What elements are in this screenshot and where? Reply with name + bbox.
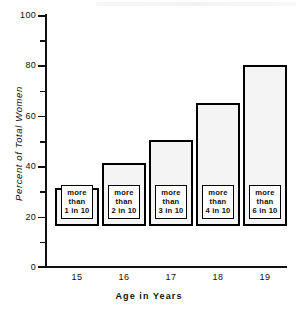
bar-annotation-19: more than 6 in 10 — [249, 185, 281, 219]
x-tick-label-17: 17 — [166, 272, 177, 282]
annotation-line-3: 6 in 10 — [252, 206, 277, 215]
bar-chart-figure: 100 80 60 40 20 0 Percent of Total Women… — [0, 0, 298, 309]
annotation-line-3: 2 in 10 — [111, 206, 136, 215]
annotation-line-1: more — [111, 188, 136, 197]
bar-age-15: more than 1 in 10 — [55, 188, 99, 226]
annotation-line-2: than — [252, 197, 277, 206]
bar-age-19: more than 6 in 10 — [243, 65, 287, 226]
x-tick-label-15: 15 — [72, 272, 83, 282]
bar-annotation-17: more than 3 in 10 — [155, 185, 187, 219]
annotation-line-2: than — [111, 197, 136, 206]
x-tick-label-16: 16 — [119, 272, 130, 282]
annotation-line-1: more — [64, 188, 89, 197]
annotation-line-1: more — [158, 188, 183, 197]
x-axis-tick-labels: 15 16 17 18 19 — [0, 272, 298, 288]
annotation-line-3: 1 in 10 — [64, 206, 89, 215]
bar-age-18: more than 4 in 10 — [196, 103, 240, 227]
annotation-line-1: more — [205, 188, 230, 197]
annotation-line-3: 3 in 10 — [158, 206, 183, 215]
annotation-line-2: than — [158, 197, 183, 206]
bar-age-16: more than 2 in 10 — [102, 163, 146, 226]
x-tick-label-19: 19 — [260, 272, 271, 282]
x-axis-title: Age in Years — [0, 291, 298, 301]
bar-annotation-16: more than 2 in 10 — [108, 185, 140, 219]
bar-series: more than 1 in 10 more than 2 in 10 more… — [0, 0, 298, 268]
bar-annotation-18: more than 4 in 10 — [202, 185, 234, 219]
bar-annotation-15: more than 1 in 10 — [61, 185, 93, 219]
x-tick-label-18: 18 — [213, 272, 224, 282]
bar-age-17: more than 3 in 10 — [149, 140, 193, 226]
annotation-line-2: than — [64, 197, 89, 206]
annotation-line-2: than — [205, 197, 230, 206]
annotation-line-3: 4 in 10 — [205, 206, 230, 215]
annotation-line-1: more — [252, 188, 277, 197]
